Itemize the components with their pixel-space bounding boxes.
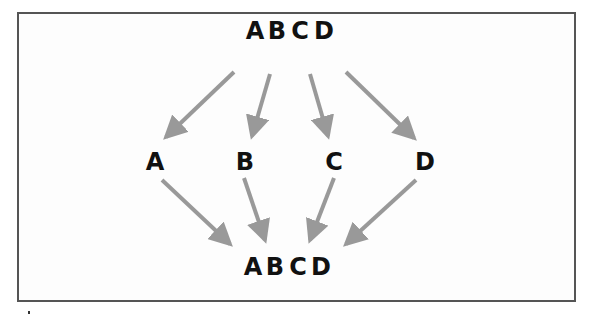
arrow-top-to-a [166,72,234,137]
bottom-letter-a: A [244,255,263,279]
bottom-letter-c: C [289,255,307,279]
top-letter-a: A [246,19,265,43]
node-c: C [325,150,343,174]
node-d: D [415,150,435,174]
arrow-d-to-bottom [346,180,416,244]
arrow-b-to-bottom [244,178,265,240]
arrow-a-to-bottom [162,180,230,244]
arrow-c-to-bottom [310,178,334,240]
node-b: B [236,150,254,174]
top-letter-c: C [291,19,309,43]
bottom-letter-b: B [266,255,284,279]
arrow-top-to-c [310,74,328,136]
bottom-letter-d: D [311,255,331,279]
top-letter-b: B [268,19,286,43]
top-letter-d: D [314,19,334,43]
arrow-top-to-d [346,72,414,138]
arrow-top-to-b [252,74,270,136]
scan-mark [28,311,30,314]
node-a: A [146,150,165,174]
